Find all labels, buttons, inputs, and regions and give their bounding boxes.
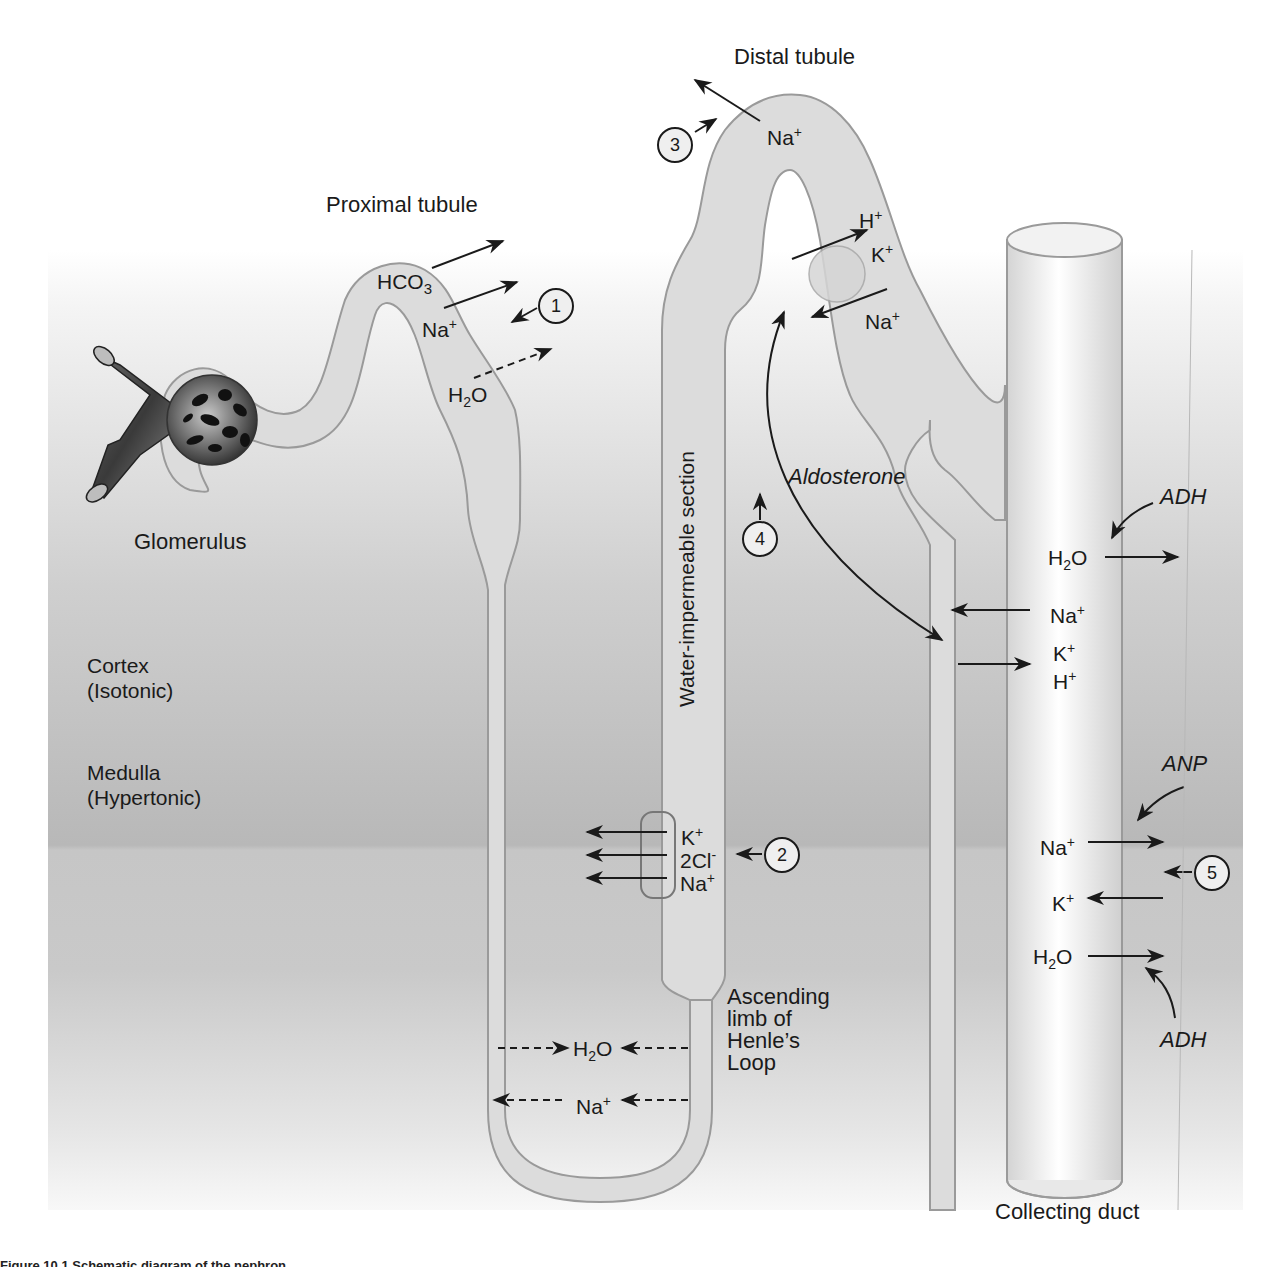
ion-loop-na: Na+ bbox=[680, 866, 715, 896]
distal-tubule-label: Distal tubule bbox=[734, 45, 855, 69]
medulla-line2: (Hypertonic) bbox=[87, 785, 201, 810]
ion-cd-na: Na+ bbox=[1050, 598, 1085, 628]
ion-distal-k: K+ bbox=[871, 237, 893, 267]
adh-top-label: ADH bbox=[1160, 485, 1206, 509]
water-impermeable-label: Water-impermeable section bbox=[675, 451, 699, 707]
ion-hco3: HCO3 bbox=[377, 270, 432, 301]
medulla-line1: Medulla bbox=[87, 760, 201, 785]
ion-distal-h: H+ bbox=[859, 203, 882, 233]
ion-desc-na: Na+ bbox=[576, 1089, 611, 1119]
ascending-line3: Henle’s bbox=[727, 1030, 830, 1052]
marker-5: 5 bbox=[1194, 855, 1230, 891]
aldosterone-label: Aldosterone bbox=[788, 465, 905, 489]
nephron-diagram: Proximal tubule Distal tubule Glomerulus… bbox=[0, 0, 1285, 1270]
collecting-duct bbox=[1007, 223, 1122, 1198]
ion-cd2-na: Na+ bbox=[1040, 830, 1075, 860]
ascending-limb-label: Ascending limb of Henle’s Loop bbox=[727, 986, 830, 1074]
ion-distal-na2: Na+ bbox=[865, 304, 900, 334]
glomerulus-label: Glomerulus bbox=[134, 530, 246, 554]
medulla-zone-label: Medulla (Hypertonic) bbox=[87, 760, 201, 810]
ion-desc-h2o: H2O bbox=[573, 1037, 612, 1068]
ascending-line1: Ascending bbox=[727, 986, 830, 1008]
cortex-line2: (Isotonic) bbox=[87, 678, 173, 703]
ion-distal-na: Na+ bbox=[767, 120, 802, 150]
anp-label: ANP bbox=[1162, 752, 1207, 776]
distal-transporter-cell bbox=[809, 246, 865, 302]
ion-cd-h2o: H2O bbox=[1048, 546, 1087, 577]
collecting-duct-label: Collecting duct bbox=[995, 1200, 1139, 1224]
ascending-line2: limb of bbox=[727, 1008, 830, 1030]
ion-prox-h2o: H2O bbox=[448, 383, 487, 414]
ion-prox-na: Na+ bbox=[422, 312, 457, 342]
ascending-line4: Loop bbox=[727, 1052, 830, 1074]
proximal-tubule-label: Proximal tubule bbox=[326, 193, 478, 217]
marker-3: 3 bbox=[657, 127, 693, 163]
cortex-zone-label: Cortex (Isotonic) bbox=[87, 653, 173, 703]
ion-cd-h: H+ bbox=[1053, 664, 1076, 694]
cortex-line1: Cortex bbox=[87, 653, 173, 678]
marker-4: 4 bbox=[742, 521, 778, 557]
ion-cd2-k: K+ bbox=[1052, 886, 1074, 916]
marker-1: 1 bbox=[538, 288, 574, 324]
adh-bottom-label: ADH bbox=[1160, 1028, 1206, 1052]
ion-cd-k: K+ bbox=[1053, 636, 1075, 666]
ion-cd2-h2o: H2O bbox=[1033, 945, 1072, 976]
marker-2: 2 bbox=[764, 837, 800, 873]
